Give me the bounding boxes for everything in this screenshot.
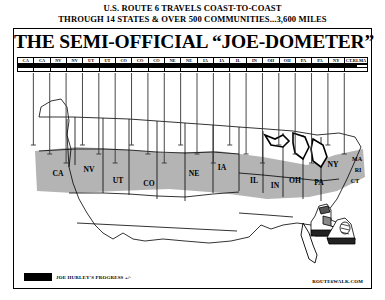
credit-url: ROUTE6WALK.COM bbox=[312, 279, 363, 284]
odometer-progress-fill bbox=[18, 65, 357, 67]
odometer-segment-ca-0[interactable]: CA bbox=[18, 58, 34, 63]
odometer-tick-7 bbox=[132, 68, 148, 71]
odometer-segment-ca-1[interactable]: CA bbox=[34, 58, 50, 63]
odometer-tick-16 bbox=[280, 68, 296, 71]
odometer-segment-ny-19[interactable]: NY bbox=[329, 58, 345, 63]
odometer-segment-ne-10[interactable]: NE bbox=[181, 58, 197, 63]
odometer-segment-co-7[interactable]: CO bbox=[132, 58, 148, 63]
odometer-segment-ne-9[interactable]: NE bbox=[165, 58, 181, 63]
odometer-tick-9 bbox=[165, 68, 181, 71]
odometer-tick-row bbox=[17, 68, 368, 72]
odometer-tick-12 bbox=[214, 68, 230, 71]
usa-map[interactable]: CANVUTCONEIAILINOHPANYMARICT bbox=[17, 73, 368, 286]
headline-line-2: THROUGH 14 STATES & OVER 500 COMMUNITIES… bbox=[0, 14, 385, 25]
odometer-segment-pa-17[interactable]: PA bbox=[296, 58, 312, 63]
legend-label: JOE HURLEY'S PROGRESS +/- bbox=[56, 275, 131, 280]
odometer-tick-11 bbox=[198, 68, 214, 71]
odometer-droplines bbox=[17, 73, 368, 193]
odometer-segment-ut-4[interactable]: UT bbox=[83, 58, 99, 63]
odometer-tick-3 bbox=[67, 68, 83, 71]
headline: U.S. ROUTE 6 TRAVELS COAST-TO-COAST THRO… bbox=[0, 3, 385, 26]
odometer-tick-8 bbox=[149, 68, 165, 71]
odometer-segment-nv-3[interactable]: NV bbox=[67, 58, 83, 63]
odometer-tick-13 bbox=[230, 68, 246, 71]
hiking-boots-icon bbox=[301, 198, 363, 248]
odometer-ruler[interactable]: CACANVNVUTUTCOCOCONENEIAIAILINOHOHPAPANY… bbox=[17, 57, 368, 72]
odometer-tick-2 bbox=[51, 68, 67, 71]
odometer-segment-co-6[interactable]: CO bbox=[116, 58, 132, 63]
odometer-segment-ia-12[interactable]: IA bbox=[214, 58, 230, 63]
panel-title: THE SEMI-OFFICIAL “JOE-DOMETER” bbox=[14, 31, 371, 53]
odometer-segment-oh-16[interactable]: OH bbox=[280, 58, 296, 63]
joe-dometer-graphic: U.S. ROUTE 6 TRAVELS COAST-TO-COAST THRO… bbox=[0, 0, 385, 300]
odometer-segment-oh-15[interactable]: OH bbox=[263, 58, 279, 63]
odometer-segment-co-8[interactable]: CO bbox=[149, 58, 165, 63]
odometer-segment-nv-2[interactable]: NV bbox=[51, 58, 67, 63]
odometer-tick-17 bbox=[296, 68, 312, 71]
odometer-tick-20 bbox=[345, 68, 367, 71]
odometer-segment-ut-5[interactable]: UT bbox=[100, 58, 116, 63]
odometer-segment-in-14[interactable]: IN bbox=[247, 58, 263, 63]
odometer-tick-14 bbox=[247, 68, 263, 71]
odometer-tick-5 bbox=[100, 68, 116, 71]
odometer-segment-pa-18[interactable]: PA bbox=[312, 58, 328, 63]
legend-swatch bbox=[24, 273, 52, 281]
odometer-tick-19 bbox=[329, 68, 345, 71]
odometer-label-row: CACANVNVUTUTCOCOCONENEIAIAILINOHOHPAPANY… bbox=[17, 57, 368, 64]
odometer-tick-6 bbox=[116, 68, 132, 71]
odometer-tick-0 bbox=[18, 68, 34, 71]
odometer-tick-18 bbox=[312, 68, 328, 71]
odometer-segment-ia-11[interactable]: IA bbox=[198, 58, 214, 63]
map-panel: THE SEMI-OFFICIAL “JOE-DOMETER” CACANVNV… bbox=[13, 28, 372, 289]
odometer-tick-4 bbox=[83, 68, 99, 71]
legend: JOE HURLEY'S PROGRESS +/- bbox=[24, 273, 131, 281]
odometer-tick-10 bbox=[181, 68, 197, 71]
odometer-tick-15 bbox=[263, 68, 279, 71]
odometer-segment-ct-ri-ma-20[interactable]: CT-RI-MA bbox=[345, 58, 367, 63]
odometer-tick-1 bbox=[34, 68, 50, 71]
headline-line-1: U.S. ROUTE 6 TRAVELS COAST-TO-COAST bbox=[0, 3, 385, 14]
odometer-segment-il-13[interactable]: IL bbox=[230, 58, 246, 63]
